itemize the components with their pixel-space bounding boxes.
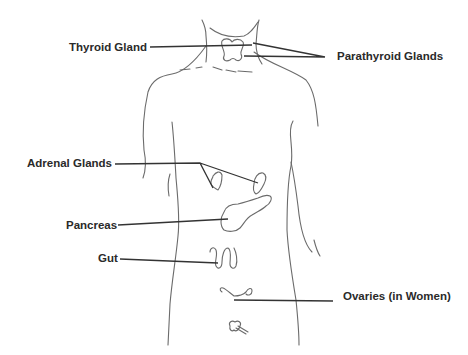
right-forearm-edge bbox=[314, 240, 320, 256]
leader-lines bbox=[115, 43, 333, 301]
gut-leader-line bbox=[120, 259, 218, 263]
jaw-line bbox=[210, 22, 258, 37]
label-ovaries: Ovaries (in Women) bbox=[343, 291, 451, 303]
label-parathyroid-glands: Parathyroid Glands bbox=[337, 51, 443, 63]
endocrine-diagram: Thyroid Gland Parathyroid Glands Adrenal… bbox=[0, 0, 468, 355]
neck-left-outline bbox=[202, 20, 207, 62]
right-arm-inner bbox=[291, 162, 312, 252]
left-torso-outline bbox=[168, 122, 179, 345]
pancreas-leader-line bbox=[118, 219, 228, 225]
label-adrenal-glands: Adrenal Glands bbox=[27, 158, 112, 170]
label-pancreas: Pancreas bbox=[66, 220, 117, 232]
adrenal-leader-lines bbox=[115, 163, 258, 188]
ovaries-leader-line bbox=[234, 300, 333, 301]
label-gut: Gut bbox=[98, 253, 118, 265]
left-arm-inner bbox=[168, 174, 170, 196]
collarbone-marks bbox=[180, 67, 252, 72]
gut-shape bbox=[210, 248, 237, 268]
label-thyroid-gland: Thyroid Gland bbox=[69, 42, 147, 54]
right-shoulder-arm-outline bbox=[254, 52, 318, 126]
adrenal-right-shape bbox=[253, 173, 265, 194]
right-torso-outline bbox=[287, 121, 299, 345]
pancreas-shape bbox=[221, 195, 271, 231]
neck-right-outline bbox=[256, 20, 262, 64]
thyroid-leader-line bbox=[150, 45, 252, 47]
thyroid-shape bbox=[222, 39, 244, 61]
ovaries-shape bbox=[220, 288, 252, 296]
lower-organ-shape bbox=[229, 321, 248, 334]
